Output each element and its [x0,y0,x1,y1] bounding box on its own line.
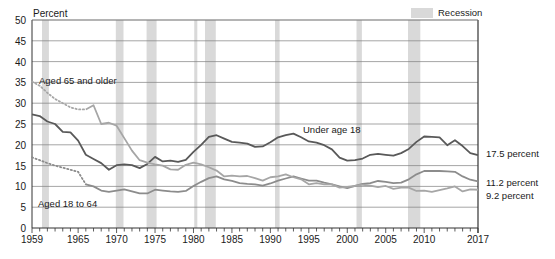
y-axis-tick: 35 [2,77,26,88]
x-axis-tick: 1970 [105,234,127,245]
x-axis-tick: 1965 [67,234,89,245]
series-line-dotted [32,157,86,184]
series-label-adults: Aged 18 to 64 [38,198,97,209]
end-label-adults: 11.2 percent [486,177,538,188]
x-axis-tick: 2000 [336,234,358,245]
y-axis-tick: 25 [2,119,26,130]
y-axis-tick: 20 [2,139,26,150]
x-axis-tick: 1985 [221,234,243,245]
y-axis-tick: 5 [2,202,26,213]
series-label-elderly: Aged 65 and older [39,75,117,86]
x-axis-tick: 1959 [21,234,43,245]
x-axis-tick: 1990 [259,234,281,245]
x-axis-tick: 2010 [413,234,435,245]
x-axis-tick: 2017 [467,234,489,245]
x-axis-tick: 2005 [375,234,397,245]
x-axis-tick: 1995 [298,234,320,245]
y-axis-tick: 40 [2,56,26,67]
series-label-children: Under age 18 [303,124,361,135]
end-label-elderly: 9.2 percent [486,190,534,201]
x-axis-tick: 1975 [144,234,166,245]
y-axis-tick: 15 [2,160,26,171]
y-axis-tick: 30 [2,98,26,109]
chart-root: Percent Recession 05101520253035404550 1… [0,0,555,259]
chart-plot-area [0,0,555,259]
y-axis-tick: 50 [2,15,26,26]
end-label-children: 17.5 percent [486,148,539,159]
y-axis-tick: 45 [2,35,26,46]
y-axis-tick: 0 [2,223,26,234]
x-axis-tick: 1980 [182,234,204,245]
y-axis-tick: 10 [2,181,26,192]
